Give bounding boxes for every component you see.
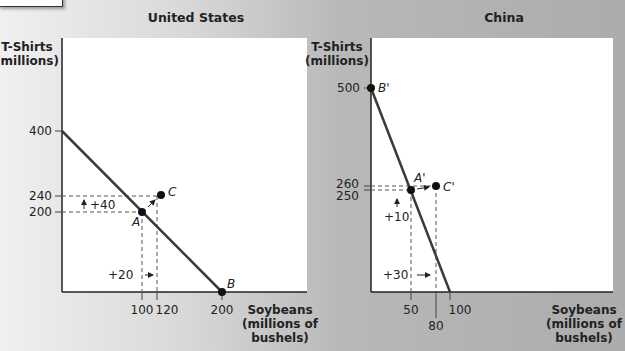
china-x-label-line3: bushels) xyxy=(555,331,613,345)
us-title: United States xyxy=(148,10,244,25)
china-plot-area xyxy=(371,38,613,292)
china-point-c xyxy=(432,182,440,190)
china-panel: China T-Shirts (millions) 500 260 250 50… xyxy=(305,10,623,345)
china-y-ticks: 500 260 250 xyxy=(336,81,371,203)
us-ann-plus20: +20 xyxy=(108,268,133,282)
china-xtick-100: 100 xyxy=(449,303,472,317)
china-x-label-line1: Soybeans xyxy=(551,303,616,317)
us-ytick-400: 400 xyxy=(29,124,52,138)
china-label-a: A' xyxy=(413,171,426,185)
us-x-ticks: 100 120 200 xyxy=(131,292,234,317)
us-y-label-line1: T-Shirts xyxy=(1,40,53,54)
china-ytick-500: 500 xyxy=(337,81,360,95)
us-point-c xyxy=(157,191,165,199)
us-xtick-100: 100 xyxy=(131,303,154,317)
china-y-label-line1: T-Shirts xyxy=(311,40,363,54)
us-x-label-line2: (millions of xyxy=(242,317,319,331)
china-point-a xyxy=(407,186,415,194)
us-xtick-120: 120 xyxy=(156,303,179,317)
china-y-label-line2: (millions) xyxy=(305,54,369,68)
china-label-c: C' xyxy=(443,180,455,194)
china-x-label-line2: (millions of xyxy=(546,317,623,331)
china-ytick-250: 250 xyxy=(336,189,359,203)
us-label-a: A xyxy=(131,215,140,229)
us-y-label-line2: (millions) xyxy=(0,54,59,68)
us-x-label-line1: Soybeans xyxy=(247,303,312,317)
china-label-b: B' xyxy=(378,81,390,95)
china-xtick-80: 80 xyxy=(428,319,443,333)
us-point-b xyxy=(218,288,226,296)
us-panel: United States T-Shirts (millions) 400 24… xyxy=(0,10,319,345)
us-xtick-200: 200 xyxy=(211,303,234,317)
us-label-b: B xyxy=(227,277,235,291)
china-point-b xyxy=(367,84,375,92)
china-title: China xyxy=(484,10,524,25)
china-x-ticks: 50 80 100 xyxy=(403,292,471,333)
china-xtick-50: 50 xyxy=(403,303,418,317)
us-x-label-line3: bushels) xyxy=(251,331,309,345)
us-y-ticks: 400 240 200 xyxy=(29,124,62,219)
us-ann-plus40: +40 xyxy=(90,198,115,212)
chart-canvas: United States T-Shirts (millions) 400 24… xyxy=(0,0,625,351)
china-ann-plus10: +10 xyxy=(384,210,409,224)
us-ytick-240: 240 xyxy=(29,189,52,203)
us-ytick-200: 200 xyxy=(29,205,52,219)
us-label-c: C xyxy=(168,185,177,199)
china-ann-plus30: +30 xyxy=(383,268,408,282)
